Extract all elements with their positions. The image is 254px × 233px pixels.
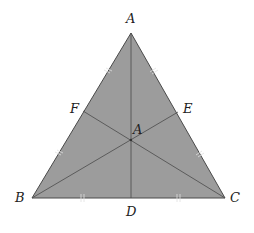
label-f: F	[69, 101, 80, 116]
diagram-canvas: A B C D E F A	[0, 0, 254, 233]
centroid-point	[130, 139, 132, 141]
label-a-top: A	[125, 11, 135, 26]
label-d: D	[125, 204, 137, 219]
label-b: B	[14, 190, 25, 205]
triangle-diagram: A B C D E F A	[0, 0, 254, 233]
label-e: E	[182, 101, 193, 116]
label-centroid: A	[132, 122, 142, 137]
label-c: C	[230, 190, 240, 205]
triangle-abc	[32, 33, 225, 198]
